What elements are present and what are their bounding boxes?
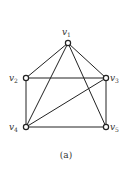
edge-v1-v3 bbox=[68, 43, 106, 78]
edge-v1-v2 bbox=[26, 43, 68, 78]
node-v5 bbox=[103, 124, 108, 129]
edges bbox=[26, 43, 106, 127]
nodes bbox=[23, 40, 108, 129]
node-v2 bbox=[23, 75, 28, 80]
node-label-v2: v2 bbox=[9, 73, 18, 84]
edge-v1-v5 bbox=[68, 43, 106, 127]
node-label-v1: v1 bbox=[62, 27, 71, 38]
graph-diagram: v1v2v3v4v5 (a) bbox=[0, 0, 127, 172]
node-label-v3: v3 bbox=[110, 73, 119, 84]
caption: (a) bbox=[60, 150, 72, 160]
node-v4 bbox=[23, 124, 28, 129]
node-v3 bbox=[103, 75, 108, 80]
node-v1 bbox=[65, 40, 70, 45]
node-label-v5: v5 bbox=[110, 122, 119, 133]
node-label-v4: v4 bbox=[9, 122, 18, 133]
